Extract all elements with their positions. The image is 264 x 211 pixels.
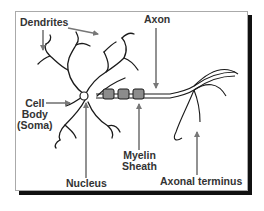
label-myelin-sheath: Myelin Sheath	[122, 150, 157, 172]
dendrites-arrow-right	[68, 28, 98, 34]
label-dendrites: Dendrites	[20, 17, 68, 28]
label-myelin-line2: Sheath	[122, 161, 157, 172]
myelin-sheath-icon	[103, 89, 144, 99]
nucleus-icon	[80, 92, 88, 100]
label-axonal-terminus: Axonal terminus	[160, 176, 242, 187]
label-cell-body-line3: (Soma)	[17, 120, 53, 131]
label-cell-body: Cell Body (Soma)	[17, 98, 53, 131]
label-axon: Axon	[144, 14, 170, 25]
label-nucleus: Nucleus	[66, 178, 107, 189]
axonal-terminus-icon	[174, 70, 238, 140]
